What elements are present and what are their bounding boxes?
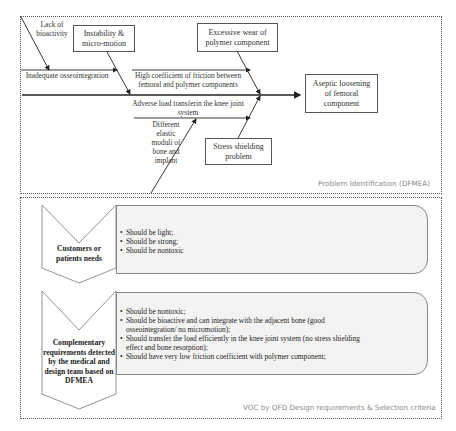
requirements-box-complementary: Should be nontoxic; Should be bioactive … <box>116 292 428 375</box>
requirement-item: Should be bioactive and can integrate wi… <box>120 316 367 334</box>
requirement-item: Should be strong; <box>120 237 427 246</box>
requirements-box-customers: Should be light; Should be strong; Shoul… <box>116 205 428 274</box>
requirement-item: Should be nontoxic <box>120 246 427 255</box>
chevron-label-complementary: Complementary requirements detected by t… <box>42 338 116 386</box>
voc-caption: VOC by QFD Design requirements & Selecti… <box>243 403 436 412</box>
requirement-item: Should transfer the load efficiently in … <box>120 334 367 352</box>
requirement-item: Should be nontoxic; <box>120 307 367 316</box>
requirement-item: Should be light; <box>120 228 427 237</box>
requirements-list-complementary: Should be nontoxic; Should be bioactive … <box>120 307 367 361</box>
chevron-label-customers: Customers or patients needs <box>44 244 114 263</box>
requirements-list-customers: Should be light; Should be strong; Shoul… <box>120 228 427 255</box>
requirement-item: Should have very low friction coefficien… <box>120 352 367 361</box>
